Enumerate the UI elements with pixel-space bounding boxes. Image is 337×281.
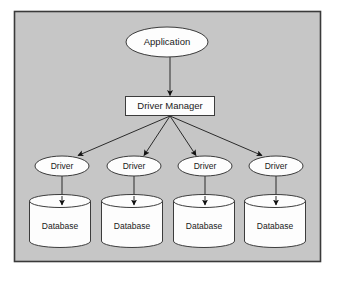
driver-manager-label: Driver Manager — [137, 100, 202, 111]
application-node[interactable]: Application — [126, 27, 208, 57]
database-label-2: Database — [114, 221, 151, 231]
driver-label-1: Driver — [51, 161, 74, 171]
driver-label-4: Driver — [265, 161, 288, 171]
driver-label-3: Driver — [194, 161, 217, 171]
architecture-diagram: Database Database Database Database — [0, 0, 337, 281]
database-node-1[interactable]: Database — [30, 195, 91, 248]
driver-node-3[interactable]: Driver — [178, 156, 232, 176]
application-label: Application — [144, 36, 190, 47]
database-node-2[interactable]: Database — [102, 195, 163, 248]
database-cylinder-top-3 — [174, 195, 235, 208]
diagram-canvas: Database Database Database Database — [0, 0, 337, 281]
driver-label-2: Driver — [123, 161, 146, 171]
database-cylinder-top-4 — [245, 195, 306, 208]
database-node-3[interactable]: Database — [174, 195, 235, 248]
driver-node-1[interactable]: Driver — [35, 156, 89, 176]
driver-manager-node[interactable]: Driver Manager — [126, 97, 215, 116]
database-cylinder-top-2 — [102, 195, 163, 208]
driver-node-2[interactable]: Driver — [107, 156, 161, 176]
database-label-1: Database — [42, 221, 79, 231]
driver-node-4[interactable]: Driver — [249, 156, 303, 176]
database-label-4: Database — [257, 221, 294, 231]
database-node-4[interactable]: Database — [245, 195, 306, 248]
database-cylinder-top-1 — [30, 195, 91, 208]
database-label-3: Database — [186, 221, 223, 231]
